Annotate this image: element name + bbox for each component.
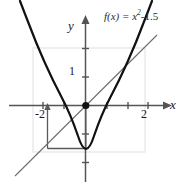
x-tick-label-negative-two: -2 bbox=[35, 108, 45, 120]
x-tick-label-positive-two: 2 bbox=[141, 108, 147, 120]
function-equation-label: f(x) = x2-1.5 bbox=[104, 9, 158, 22]
plot-canvas bbox=[0, 0, 188, 188]
y-axis bbox=[82, 15, 90, 182]
x-axis-label: x bbox=[170, 98, 176, 111]
math-figure: x y -2 2 1 f(x) = x2-1.5 bbox=[0, 0, 188, 188]
origin-point-marker bbox=[82, 102, 89, 109]
y-tick-label-one: 1 bbox=[69, 65, 75, 77]
y-axis-label: y bbox=[68, 19, 74, 32]
function-label-suffix: -1.5 bbox=[141, 10, 158, 22]
function-label-prefix: f(x) = x bbox=[104, 10, 137, 22]
